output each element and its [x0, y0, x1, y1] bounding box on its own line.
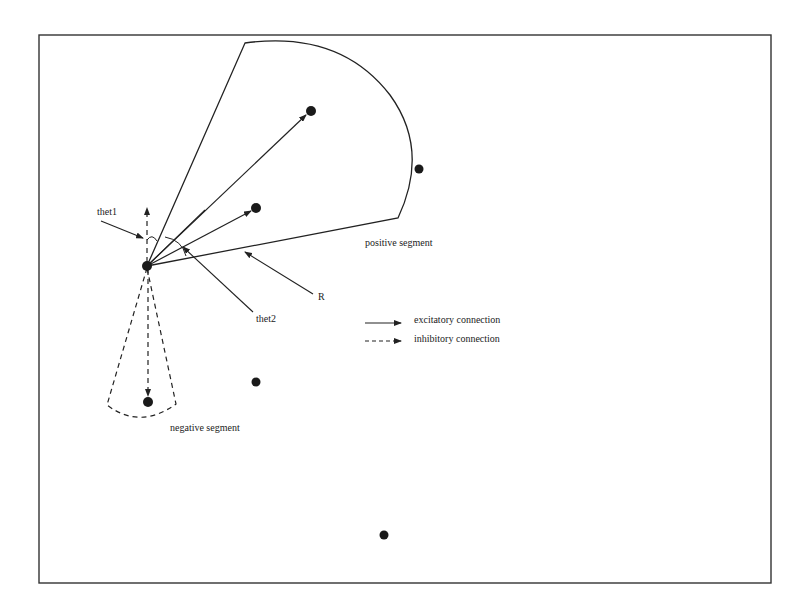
- thet2-pointer: [183, 247, 253, 312]
- diagram-frame: [39, 35, 771, 583]
- thet1-pointer: [101, 221, 143, 238]
- neuron-outside-right: [415, 165, 424, 174]
- radius-pointer: [245, 252, 313, 294]
- thet1-arc: [147, 237, 157, 241]
- legend: excitatory connection inhibitory connect…: [365, 314, 500, 344]
- excitatory-arrow-near: [147, 211, 251, 266]
- source-neuron: [142, 261, 152, 271]
- diagram-canvas: thet1 thet2 R positive segment negative …: [0, 0, 810, 612]
- neuron-pos-near: [251, 203, 261, 213]
- radius-label: R: [318, 291, 325, 302]
- negative-segment-label: negative segment: [170, 422, 240, 433]
- positive-segment-label: positive segment: [365, 237, 433, 248]
- sector-inner-ray: [147, 210, 205, 266]
- legend-inhibitory-label: inhibitory connection: [414, 333, 500, 344]
- negative-segment-shape: [107, 268, 176, 417]
- thet1-label: thet1: [97, 206, 117, 217]
- neuron-outside-middle: [252, 378, 261, 387]
- neuron-pos-far: [306, 106, 316, 116]
- legend-excitatory-label: excitatory connection: [414, 314, 500, 325]
- neuron-outside-bottom: [380, 531, 389, 540]
- neuron-neg-target: [143, 397, 153, 407]
- thet2-label: thet2: [256, 313, 276, 324]
- positive-segment-shape: [147, 41, 412, 266]
